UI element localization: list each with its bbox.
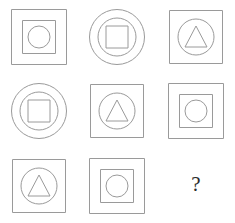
outer-square-shape [169,11,222,64]
inner-triangle-shape [185,26,207,47]
cell-1-graphic [8,6,70,68]
outer-square-shape [91,85,144,138]
matrix-cell-8[interactable] [78,149,156,223]
inner-square-shape [28,100,50,122]
inner-circle-shape [98,18,136,56]
outer-square-shape [168,84,223,139]
cell-2-graphic [86,6,148,68]
question-mark-placeholder: ? [191,174,200,197]
matrix-puzzle: ? [0,0,235,223]
matrix-cell-5[interactable] [78,74,156,148]
inner-square-shape [101,169,134,202]
outer-square-shape [12,10,67,65]
inner-square-shape [106,26,128,48]
inner-square-shape [179,95,212,128]
matrix-cell-3[interactable] [157,0,235,74]
cell-8-graphic [86,155,148,217]
cell-5-graphic [86,80,148,142]
outer-square-shape [90,158,145,213]
inner-circle-shape [28,26,50,48]
inner-circle-shape [20,92,58,130]
matrix-grid: ? [0,0,235,223]
matrix-cell-6[interactable] [157,74,235,148]
inner-circle-shape [106,175,128,197]
cell-7-graphic [8,155,70,217]
cell-6-graphic [165,80,227,142]
inner-circle-shape [99,93,135,129]
inner-circle-shape [21,168,57,204]
cell-3-graphic [165,6,227,68]
inner-square-shape [23,21,56,54]
matrix-cell-2[interactable] [78,0,156,74]
cell-4-graphic [8,80,70,142]
matrix-cell-4[interactable] [0,74,78,148]
inner-triangle-shape [28,175,50,196]
inner-circle-shape [185,100,207,122]
matrix-cell-1[interactable] [0,0,78,74]
outer-square-shape [13,159,66,212]
inner-circle-shape [178,19,214,55]
matrix-cell-7[interactable] [0,149,78,223]
inner-triangle-shape [106,100,128,121]
matrix-cell-9-missing[interactable]: ? [157,149,235,223]
